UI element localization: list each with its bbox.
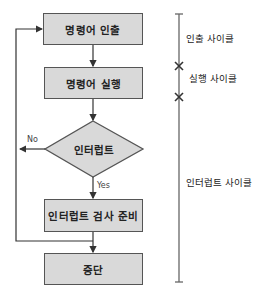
branch-no-label: No xyxy=(27,135,38,144)
step-prepare-label: 인터럽트 검사 준비 xyxy=(48,208,138,223)
step-fetch-label: 명령어 인출 xyxy=(65,22,120,37)
step-fetch: 명령어 인출 xyxy=(43,13,143,45)
step-prepare: 인터럽트 검사 준비 xyxy=(44,199,143,232)
branch-yes-label: Yes xyxy=(97,181,110,190)
cycle-label-execute: 실행 사이클 xyxy=(189,71,237,85)
step-execute: 명령어 실행 xyxy=(44,67,143,99)
step-execute-label: 명령어 실행 xyxy=(66,76,121,91)
step-interrupt-label: 인터럽트 xyxy=(74,142,114,157)
cycle-label-fetch: 인출 사이클 xyxy=(186,31,234,45)
step-halt-label: 중단 xyxy=(83,262,104,277)
cycle-label-interrupt: 인터럽트 사이클 xyxy=(186,175,252,189)
step-halt: 중단 xyxy=(44,253,143,285)
